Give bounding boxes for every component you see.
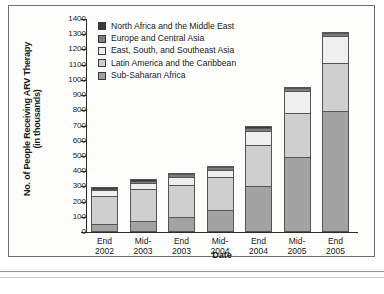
y-tick-mark — [81, 80, 86, 81]
y-tick-mark — [81, 95, 86, 96]
y-axis-title-line2: (in thousands) — [32, 89, 42, 148]
bar-mid-2005[interactable] — [284, 87, 311, 232]
bar-end-2003[interactable] — [168, 173, 195, 232]
bar-segment — [91, 196, 118, 225]
bar-end-2002[interactable] — [91, 187, 118, 232]
chart-legend: North Africa and the Middle EastEurope a… — [98, 20, 298, 82]
y-tick-mark — [81, 186, 86, 187]
y-tick-mark — [81, 110, 86, 111]
bar-segment — [245, 145, 272, 187]
y-tick-mark — [81, 202, 86, 203]
y-axis-ticks: 0100200300400500600700800900100011001200… — [50, 14, 86, 237]
bar-segment — [245, 186, 272, 232]
bar-segment — [207, 170, 234, 178]
legend-label: East, South, and Southeast Asia — [111, 46, 234, 55]
y-axis-title: No. of People Receiving ARV Therapy (in … — [17, 19, 47, 219]
bar-segment — [168, 185, 195, 217]
bar-segment — [284, 91, 311, 113]
y-tick-mark — [81, 34, 86, 35]
bar-segment — [130, 221, 157, 232]
bar-segment — [207, 210, 234, 232]
legend-item[interactable]: Sub-Saharan Africa — [98, 70, 298, 82]
legend-swatch-icon — [98, 22, 106, 30]
legend-item[interactable]: North Africa and the Middle East — [98, 20, 298, 32]
legend-item[interactable]: Latin America and the Caribbean — [98, 57, 298, 69]
page-rule-bottom — [0, 277, 384, 278]
legend-item[interactable]: East, South, and Southeast Asia — [98, 45, 298, 57]
y-tick-mark — [81, 141, 86, 142]
legend-swatch-icon — [98, 59, 106, 67]
bar-segment — [207, 177, 234, 210]
bar-end-2005[interactable] — [322, 32, 349, 232]
y-tick-mark — [81, 217, 86, 218]
y-tick-mark — [81, 232, 86, 233]
bar-end-2004[interactable] — [245, 126, 272, 232]
bar-segment — [130, 183, 157, 190]
y-tick-mark — [81, 65, 86, 66]
bar-segment — [322, 111, 349, 232]
x-axis-title: Date — [78, 250, 366, 260]
bar-mid-2004[interactable] — [207, 166, 234, 232]
y-axis-title-line1: No. of People Receiving ARV Therapy — [22, 42, 32, 196]
bar-segment — [91, 224, 118, 232]
page-rule-top — [0, 271, 384, 272]
bar-mid-2003[interactable] — [130, 179, 157, 232]
bar-segment — [168, 217, 195, 232]
y-tick-mark — [81, 19, 86, 20]
y-tick-mark — [81, 156, 86, 157]
legend-label: Sub-Saharan Africa — [111, 71, 186, 80]
bar-segment — [284, 113, 311, 157]
legend-swatch-icon — [98, 47, 106, 55]
bar-segment — [322, 63, 349, 111]
bar-segment — [245, 131, 272, 145]
bar-segment — [284, 157, 311, 232]
legend-swatch-icon — [98, 35, 106, 43]
bar-segment — [168, 177, 195, 185]
legend-label: Latin America and the Caribbean — [111, 59, 236, 68]
legend-swatch-icon — [98, 72, 106, 80]
legend-label: North Africa and the Middle East — [111, 22, 234, 31]
legend-item[interactable]: Europe and Central Asia — [98, 32, 298, 44]
bar-segment — [322, 36, 349, 63]
y-tick-mark — [81, 49, 86, 50]
y-tick-mark — [81, 126, 86, 127]
legend-label: Europe and Central Asia — [111, 34, 204, 43]
y-tick-mark — [81, 171, 86, 172]
bar-segment — [130, 189, 157, 221]
